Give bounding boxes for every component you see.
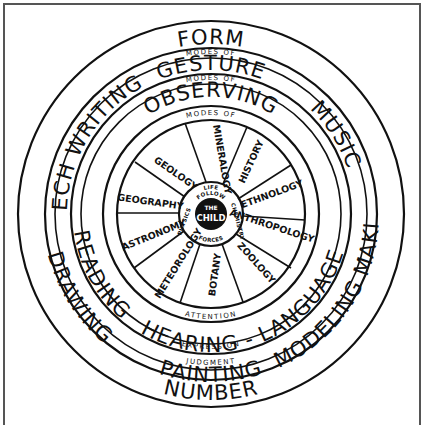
spoke-history: HISTORY: [236, 138, 266, 185]
hub-life: LIFE: [203, 184, 219, 191]
spoke-ethnology: ETHNOLOGY: [239, 177, 304, 210]
label-form: FORM: [176, 25, 246, 52]
center-child: CHILD: [197, 213, 226, 223]
spoke-mineralogy: MINERALOGY: [211, 124, 234, 195]
spoke-botany: BOTANY: [206, 252, 223, 296]
center-the: THE: [204, 204, 217, 211]
label-modes-of-inner: MODES OF: [185, 109, 237, 120]
spoke-geology: GEOLOGY: [152, 154, 200, 192]
spoke-geography: GEOGRAPHY: [117, 191, 185, 211]
hub-forces: FORCES: [198, 234, 224, 243]
